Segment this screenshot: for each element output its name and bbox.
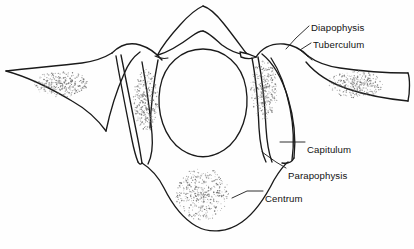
label-diapophysis: Diapophysis: [311, 23, 364, 33]
left-rib-head-outline-2: [121, 55, 142, 163]
left-rib-head-outline: [116, 56, 138, 162]
vertebra-diagram: Diapophysis Tuberculum Capitulum Parapop…: [0, 0, 414, 249]
label-centrum: Centrum: [265, 194, 303, 204]
right-tuberculum-edge: [308, 56, 408, 73]
spine-base-left-shelf: [155, 56, 168, 58]
neural-canal: [159, 49, 247, 157]
left-diapophysis-outline: [112, 44, 162, 60]
label-parapophysis: Parapophysis: [288, 171, 347, 181]
neural-spine-apex: [203, 6, 246, 53]
neural-spine-notch-right: [203, 31, 246, 55]
right-rib-tip: [408, 73, 410, 101]
centrum-leader: [232, 191, 263, 198]
stipple-cross-sections: [34, 61, 383, 221]
right-rib-head-inner: [271, 58, 293, 160]
neural-spine-left-edge: [157, 6, 203, 56]
label-tuberculum: Tuberculum: [313, 40, 364, 50]
stipple-patch-centrum-section: [175, 169, 229, 220]
left-rib-upper-edge: [6, 53, 112, 71]
spine-base-right-shelf: [240, 52, 256, 59]
right-lamina-outer: [252, 58, 266, 162]
label-capitulum: Capitulum: [307, 145, 351, 155]
diapophysis-leader: [286, 26, 309, 49]
vertebra-drawing-canvas: [0, 0, 414, 249]
